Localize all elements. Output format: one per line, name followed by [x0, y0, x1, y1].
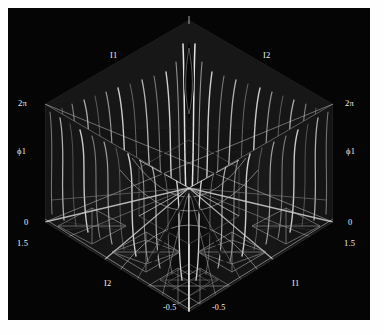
- axis-name-bottom-left-I2: I2: [104, 278, 111, 288]
- plot-graphics: [0, 0, 384, 335]
- axis-name-top-right-I2: I2: [263, 50, 270, 60]
- axis-name-right-phi1: ϕ1: [346, 146, 355, 156]
- axis-tick-left-2pi: 2π: [18, 98, 27, 108]
- axis-tick-right-2pi: 2π: [345, 98, 354, 108]
- axis-tick-left-0: 0: [24, 217, 28, 227]
- figure-page: 2π ϕ1 0 1.5 2π ϕ1 0 1.5 I1 I2 I2 I1 -0.5…: [0, 0, 384, 335]
- axis-name-left-phi1: ϕ1: [17, 146, 26, 156]
- axis-name-bottom-right-I1: I1: [292, 278, 299, 288]
- axis-tick-right-0: 0: [348, 217, 352, 227]
- axis-tick-left-1p5: 1.5: [17, 238, 28, 248]
- axis-tick-bottom-right-neg0p5: -0.5: [212, 303, 225, 312]
- axis-name-top-left-I1: I1: [110, 50, 117, 60]
- axis-tick-bottom-left-neg0p5: -0.5: [163, 303, 176, 312]
- axis-tick-right-1p5: 1.5: [344, 238, 355, 248]
